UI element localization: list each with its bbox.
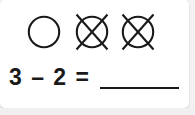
counter-item-2[interactable] — [68, 8, 116, 56]
worksheet-card: 3 – 2 = — [0, 0, 189, 108]
circle-icon — [20, 8, 68, 56]
equation-row: 3 – 2 = — [9, 62, 189, 98]
counters-row — [18, 8, 178, 56]
answer-blank-line[interactable] — [100, 87, 179, 89]
equation-expression: 3 – 2 = — [9, 62, 98, 92]
circle-crossed-out-icon — [114, 8, 162, 56]
page-bottom-edge — [0, 108, 195, 115]
circle-crossed-out-icon — [68, 8, 116, 56]
counter-item-1[interactable] — [20, 8, 68, 56]
worksheet-screenshot: 3 – 2 = — [0, 0, 195, 115]
counter-item-3[interactable] — [114, 8, 162, 56]
